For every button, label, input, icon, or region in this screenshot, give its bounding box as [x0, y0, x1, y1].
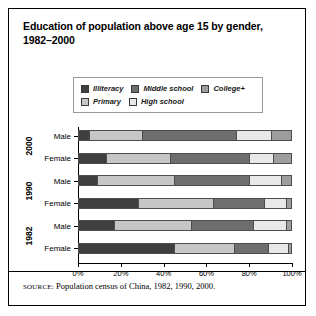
bar-segment-middle-school: [234, 243, 268, 254]
legend-row: IlliteracyMiddle schoolCollege+: [81, 82, 256, 95]
bar-segment-high-school: [268, 243, 287, 254]
bar-segment-primary: [89, 130, 143, 141]
bar-row: [78, 130, 292, 141]
x-axis-tick: [78, 263, 79, 267]
bar-segment-illiteracy: [78, 198, 138, 209]
bar-segment-middle-school: [170, 153, 249, 164]
chart-legend: IlliteracyMiddle schoolCollege+PrimaryHi…: [73, 77, 263, 113]
source-note: SOURCE: Population census of China, 1982…: [23, 281, 215, 291]
bar-segment-middle-school: [174, 175, 249, 186]
legend-entry-college: College+: [201, 84, 244, 93]
y-axis-tick: [74, 158, 78, 159]
bar-segment-high-school: [249, 153, 273, 164]
bar-segment-college: [286, 198, 292, 209]
legend-swatch-icon: [129, 98, 137, 106]
bar-segment-college: [271, 130, 292, 141]
x-axis-tick: [121, 263, 122, 267]
y-axis-tick: [74, 136, 78, 137]
bar-segment-high-school: [236, 130, 270, 141]
legend-label: College+: [213, 84, 244, 93]
source-kicker: SOURCE:: [23, 283, 54, 291]
legend-label: High school: [141, 97, 184, 106]
bar-segment-illiteracy: [78, 130, 89, 141]
bar-segment-illiteracy: [78, 220, 114, 231]
y-axis-tick: [74, 248, 78, 249]
y-axis-label-1982-male: Male: [54, 221, 71, 230]
y-axis-label-2000-male: Male: [54, 131, 71, 140]
x-axis-tick: [292, 263, 293, 267]
bar-segment-primary: [97, 175, 174, 186]
bar-segment-high-school: [253, 220, 285, 231]
bar-segment-high-school: [264, 198, 285, 209]
bar-segment-illiteracy: [78, 175, 97, 186]
legend-entry-primary: Primary: [81, 97, 121, 106]
legend-entry-illiteracy: Illiteracy: [81, 84, 123, 93]
bar-row: [78, 243, 292, 254]
bar-segment-high-school: [249, 175, 281, 186]
bar-segment-primary: [114, 220, 191, 231]
y-axis-tick: [74, 181, 78, 182]
y-axis-tick: [74, 203, 78, 204]
bar-segment-college: [286, 220, 292, 231]
bar-segment-college: [288, 243, 292, 254]
x-axis-tick: [206, 263, 207, 267]
chart-title-line-2: 1982–2000: [23, 34, 285, 48]
legend-swatch-icon: [81, 85, 89, 93]
legend-label: Middle school: [143, 84, 193, 93]
legend-swatch-icon: [131, 85, 139, 93]
y-axis-year-1982: 1982: [24, 219, 34, 253]
bar-row: [78, 198, 292, 209]
y-axis-label-1982-female: Female: [44, 244, 71, 253]
legend-swatch-icon: [201, 85, 209, 93]
y-axis-year-2000: 2000: [24, 129, 34, 163]
y-axis-label-1990-male: Male: [54, 176, 71, 185]
legend-row: PrimaryHigh school: [81, 95, 256, 108]
source-divider: [9, 271, 305, 272]
legend-swatch-icon: [81, 98, 89, 106]
legend-entry-middle-school: Middle school: [131, 84, 193, 93]
bar-segment-primary: [138, 198, 213, 209]
x-axis-line: [78, 263, 292, 264]
bar-row: [78, 220, 292, 231]
source-text: Population census of China, 1982, 1990, …: [54, 281, 215, 291]
y-axis-label-1990-female: Female: [44, 199, 71, 208]
x-axis-tick: [164, 263, 165, 267]
bar-segment-college: [273, 153, 292, 164]
y-axis-tick: [74, 226, 78, 227]
bar-segment-primary: [106, 153, 170, 164]
bar-segment-illiteracy: [78, 243, 174, 254]
bar-segment-middle-school: [191, 220, 253, 231]
chart-title: Education of population above age 15 by …: [23, 20, 285, 47]
bar-segment-illiteracy: [78, 153, 106, 164]
chart-title-line-1: Education of population above age 15 by …: [23, 20, 285, 34]
plot-area: 0%20%40%60%80%100% MaleFemaleMaleFemaleM…: [78, 127, 292, 263]
y-axis-label-2000-female: Female: [44, 154, 71, 163]
y-axis-year-1990: 1990: [24, 174, 34, 208]
bar-segment-middle-school: [142, 130, 236, 141]
x-axis-tick: [249, 263, 250, 267]
bar-row: [78, 175, 292, 186]
legend-label: Illiteracy: [93, 84, 123, 93]
bar-row: [78, 153, 292, 164]
legend-entry-high-school: High school: [129, 97, 184, 106]
legend-label: Primary: [93, 97, 121, 106]
bar-segment-college: [281, 175, 292, 186]
bar-segment-middle-school: [213, 198, 264, 209]
bar-segment-primary: [174, 243, 234, 254]
figure-container: Education of population above age 15 by …: [8, 8, 306, 306]
